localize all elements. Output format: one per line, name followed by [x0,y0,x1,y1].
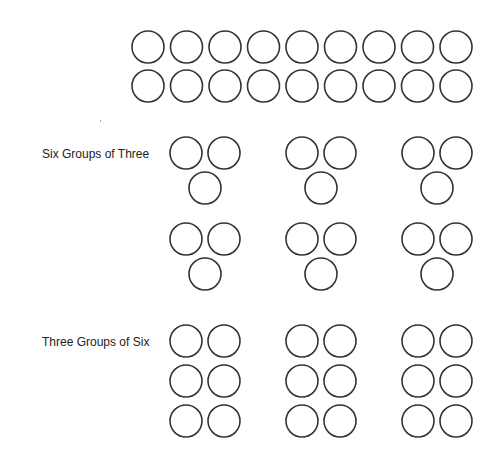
group-of-three [286,223,356,290]
top-array [132,31,472,102]
grouping-diagram: Six Groups of Three Three Groups of Six [0,0,500,467]
group-of-three [170,137,240,204]
group-of-three [402,223,472,290]
group-of-three [402,137,472,204]
six-groups-of-three [170,137,472,290]
section-label-six-groups-of-three: Six Groups of Three [42,147,149,161]
group-of-six [286,325,356,437]
group-of-six [402,325,472,437]
group-of-three [170,223,240,290]
circles-canvas [0,0,500,467]
section-label-three-groups-of-six: Three Groups of Six [42,335,149,349]
group-of-six [170,325,240,437]
three-groups-of-six [170,325,472,437]
group-of-three [286,137,356,204]
speck-mark [100,120,101,122]
